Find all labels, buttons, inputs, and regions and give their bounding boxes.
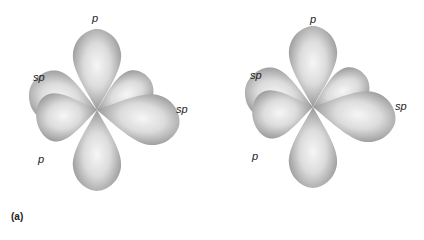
orbital-diagram — [0, 0, 424, 240]
label-right-upper-sp: sp — [250, 70, 262, 81]
label-left-right-sp: sp — [176, 104, 188, 115]
label-right-right-sp: sp — [395, 101, 407, 112]
label-left-lower-p: p — [38, 154, 44, 165]
orbital-set-left — [22, 29, 184, 191]
figure-caption: (a) — [11, 212, 23, 222]
label-left-top-p: p — [92, 13, 98, 24]
label-right-lower-p: p — [252, 151, 258, 162]
label-left-upper-sp: sp — [33, 72, 45, 83]
label-right-top-p: p — [310, 14, 316, 25]
orbital-set-right — [238, 26, 400, 188]
